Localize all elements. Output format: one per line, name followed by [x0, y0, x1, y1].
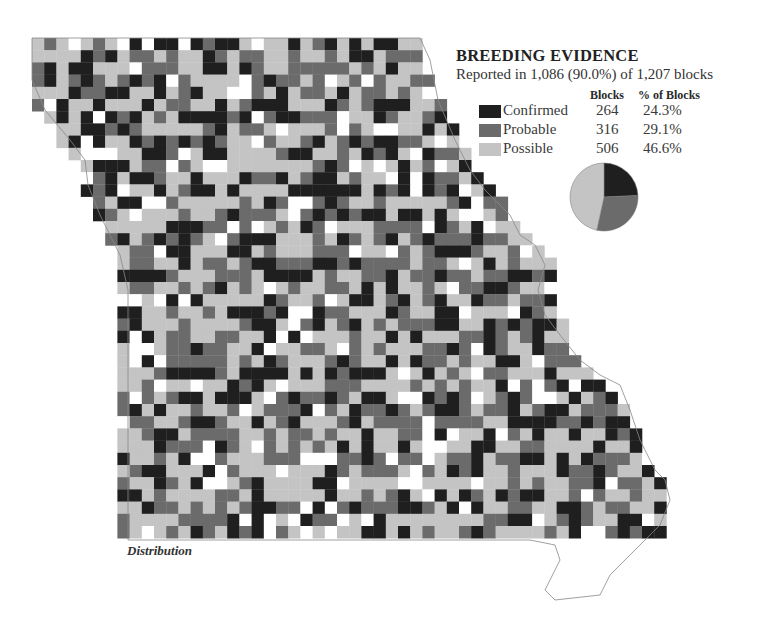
map-block	[166, 87, 179, 100]
map-block	[288, 270, 301, 283]
map-block	[520, 245, 533, 258]
map-block	[142, 306, 155, 319]
map-block	[93, 209, 106, 222]
map-block	[410, 172, 423, 185]
map-block	[130, 184, 143, 197]
map-block	[422, 197, 435, 210]
map-block	[422, 209, 435, 222]
map-block	[532, 428, 545, 441]
map-block	[215, 477, 228, 490]
map-block	[288, 282, 301, 295]
map-block	[252, 258, 265, 271]
map-block	[447, 526, 460, 539]
map-block	[191, 160, 204, 173]
map-block	[471, 526, 484, 539]
map-block	[605, 453, 618, 466]
map-block	[374, 209, 387, 222]
map-block	[569, 453, 582, 466]
map-block	[142, 50, 155, 63]
map-block	[239, 294, 252, 307]
map-block	[239, 99, 252, 112]
map-block	[117, 62, 129, 75]
map-block	[105, 123, 118, 135]
map-block	[154, 319, 167, 332]
map-block	[447, 441, 460, 454]
map-block	[252, 489, 265, 502]
map-block	[459, 148, 472, 161]
map-block	[191, 233, 204, 246]
map-block	[215, 294, 228, 307]
map-block	[117, 50, 129, 63]
map-block	[154, 38, 167, 51]
map-block	[532, 294, 545, 307]
map-block	[459, 416, 472, 429]
map-block	[581, 441, 594, 454]
map-block	[300, 209, 313, 222]
map-block	[191, 428, 204, 441]
map-block	[337, 367, 350, 380]
map-block	[69, 99, 82, 112]
map-block	[130, 441, 143, 454]
map-block	[471, 282, 484, 295]
map-block	[313, 184, 326, 197]
map-block	[386, 38, 399, 51]
map-block	[227, 367, 240, 380]
map-block	[239, 343, 252, 356]
map-block	[252, 245, 265, 258]
map-block	[337, 75, 350, 88]
map-block	[191, 50, 204, 63]
map-block	[239, 355, 252, 368]
map-block	[227, 489, 240, 502]
map-block	[337, 428, 350, 441]
map-block	[386, 355, 399, 368]
map-block	[130, 87, 143, 100]
map-block	[227, 380, 240, 393]
map-block	[130, 233, 143, 246]
map-block	[203, 245, 216, 258]
map-block	[337, 111, 350, 124]
map-block	[166, 331, 179, 344]
map-block	[81, 123, 94, 135]
map-block	[252, 477, 265, 490]
map-block	[410, 294, 423, 307]
map-block	[496, 294, 509, 307]
map-block	[483, 465, 496, 478]
map-block	[593, 441, 606, 454]
map-block	[532, 331, 545, 344]
map-block	[630, 465, 643, 478]
map-block	[325, 453, 338, 466]
map-block	[215, 367, 228, 380]
map-block	[544, 355, 557, 368]
map-block	[483, 404, 496, 417]
map-block	[227, 209, 240, 222]
map-block	[349, 245, 362, 258]
map-block	[215, 160, 228, 173]
map-block	[386, 294, 399, 307]
map-block	[447, 233, 460, 246]
map-block	[227, 355, 240, 368]
map-block	[410, 160, 423, 173]
map-block	[349, 331, 362, 344]
map-block	[630, 514, 643, 527]
map-block	[239, 209, 252, 222]
map-block	[557, 526, 570, 539]
map-block	[264, 294, 277, 307]
map-block	[447, 331, 460, 344]
map-block	[422, 453, 435, 466]
map-block	[227, 477, 240, 490]
map-block	[435, 209, 448, 222]
map-block	[69, 111, 82, 124]
map-block	[276, 416, 289, 429]
map-block	[252, 367, 265, 380]
map-block	[386, 331, 399, 344]
map-block	[142, 367, 155, 380]
map-block	[178, 270, 191, 283]
map-block	[508, 270, 521, 283]
map-block	[203, 160, 216, 173]
map-block	[191, 184, 204, 197]
map-block	[142, 319, 155, 332]
map-block	[410, 477, 423, 490]
map-block	[544, 343, 557, 356]
map-block	[313, 62, 326, 75]
map-block	[252, 270, 265, 283]
